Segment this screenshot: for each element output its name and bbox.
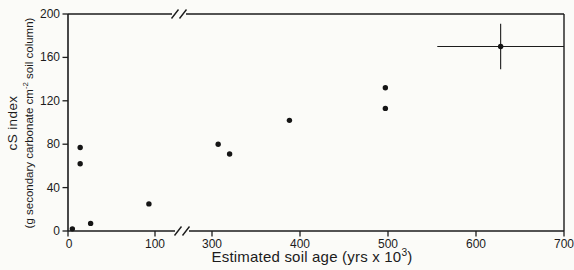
data-point <box>383 85 388 90</box>
chart-figure: cS index (g secondary carbonate cm-2 soi… <box>0 0 574 270</box>
x-axis-title: Estimated soil age (yrs x 103) <box>132 248 492 265</box>
plot-area: 010030040050060070004080120160200 <box>0 0 574 270</box>
data-point <box>215 142 220 147</box>
y-tick-label: 160 <box>40 50 60 64</box>
data-point <box>77 145 82 150</box>
data-point <box>70 226 75 231</box>
data-point <box>77 161 82 166</box>
data-point <box>88 221 93 226</box>
data-point <box>383 106 388 111</box>
x-axis-break-mark <box>175 227 190 236</box>
data-point <box>498 44 503 49</box>
x-tick-label: 0 <box>66 237 73 251</box>
y-tick-label: 0 <box>53 224 60 238</box>
y-tick-label: 120 <box>40 94 60 108</box>
data-point <box>227 151 232 156</box>
x-axis-title-tail: ) <box>407 248 412 265</box>
y-tick-label: 200 <box>40 7 60 21</box>
data-point <box>287 118 292 123</box>
y-tick-label: 40 <box>47 181 61 195</box>
top-border-break-mark <box>172 10 187 19</box>
y-tick-label: 80 <box>47 137 61 151</box>
x-tick-label: 700 <box>554 237 574 251</box>
x-axis-title-text: Estimated soil age (yrs x 10 <box>212 248 402 265</box>
data-point <box>146 201 151 206</box>
